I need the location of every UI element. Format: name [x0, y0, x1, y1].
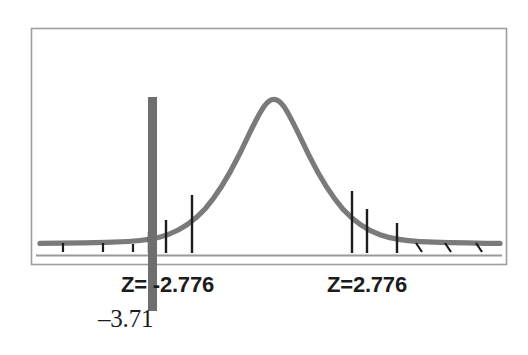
right-critical-value-label: Z=2.776: [327, 272, 407, 298]
normal-curve-chart: [0, 0, 528, 355]
test-statistic-value-label: –3.71: [98, 305, 153, 333]
left-critical-value-label: Z= -2.776: [121, 272, 214, 298]
chart-frame-border: [32, 29, 507, 265]
figure-container: Z= -2.776 Z=2.776 –3.71: [0, 0, 528, 355]
